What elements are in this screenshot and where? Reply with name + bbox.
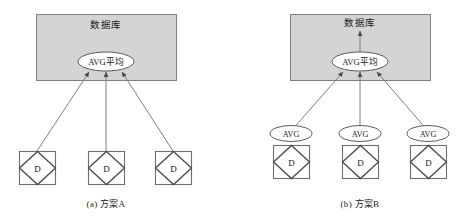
leaf-node-label-a-2: D [103,164,110,174]
leaf-ellipse-label-b-2: AVG [352,130,369,139]
leaf-group-b-3: AVG D [407,126,449,179]
aggregate-ellipse-label-a: AVG平均 [88,56,124,67]
aggregate-ellipse-label-b: AVG平均 [342,56,378,67]
leaf-node-label-b-3: D [425,158,432,168]
leaf-node-a-1: D [20,152,56,185]
leaf-node-label-a-1: D [34,164,41,174]
leaf-ellipse-label-b-1: AVG [283,130,300,139]
leaf-node-a-3: D [156,152,192,185]
database-title-b: 数据库 [344,17,375,28]
figure-root: 数据库 AVG平均 D D D [0,0,463,223]
leaf-node-label-b-1: D [288,158,295,168]
leaf-node-label-b-2: D [357,158,364,168]
panel-a: 数据库 AVG平均 D D D [20,15,192,210]
leaf-node-label-a-3: D [170,164,177,174]
panel-caption-b: (b) 方案B [341,198,380,209]
panel-caption-a: (a) 方案A [87,198,126,209]
database-title-a: 数据库 [90,19,121,30]
flow-arrow-a-1 [37,72,89,151]
leaf-group-b-2: AVG D [339,126,381,179]
diagram-canvas: 数据库 AVG平均 D D D [0,0,463,223]
panel-b: 数据库 AVG平均 AVG D AVG [270,15,449,210]
leaf-group-b-1: AVG D [270,126,312,179]
leaf-node-a-2: D [89,152,125,185]
leaf-ellipse-label-b-3: AVG [420,130,437,139]
flow-arrow-a-3 [122,72,173,151]
